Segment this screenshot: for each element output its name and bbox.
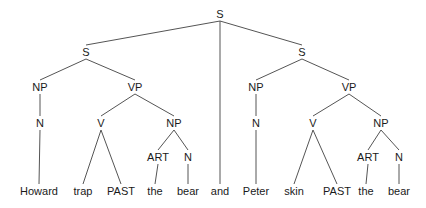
tree-edges <box>0 0 426 208</box>
tree-node-v1: V <box>97 118 104 129</box>
tree-node-s0: S <box>216 9 223 20</box>
tree-edge <box>86 59 135 80</box>
leaf-word-w7: Peter <box>243 186 269 197</box>
tree-node-vp2: VP <box>342 82 357 93</box>
tree-edge <box>86 21 220 45</box>
tree-edge <box>294 130 313 184</box>
tree-edge <box>366 164 368 184</box>
tree-node-art1: ART <box>147 152 169 163</box>
tree-node-vp1: VP <box>128 82 143 93</box>
leaf-word-w3: PAST <box>107 186 135 197</box>
tree-node-n3: N <box>184 152 192 163</box>
leaf-word-w6: and <box>211 186 229 197</box>
syntax-tree-diagram: SSSNPVPNPVPNVNPNVNPARTNARTNHowardtrapPAS… <box>0 0 426 208</box>
tree-edge <box>313 94 349 116</box>
tree-edge <box>174 130 188 150</box>
tree-edge <box>40 59 86 80</box>
tree-edge <box>313 130 337 184</box>
tree-edge <box>155 164 158 184</box>
tree-node-v2: V <box>309 118 316 129</box>
leaf-word-w5: bear <box>177 186 199 197</box>
tree-edge <box>368 130 381 150</box>
leaf-word-w11: bear <box>388 186 410 197</box>
tree-edge <box>83 130 101 184</box>
tree-edge <box>349 94 381 116</box>
leaf-word-w1: Howard <box>20 186 58 197</box>
leaf-word-w10: the <box>358 186 373 197</box>
tree-edge <box>101 94 135 116</box>
tree-node-n4: N <box>395 152 403 163</box>
tree-edge <box>39 130 40 184</box>
tree-edge <box>135 94 174 116</box>
tree-edge <box>302 59 349 80</box>
tree-edge <box>381 130 399 150</box>
leaf-word-w9: PAST <box>323 186 351 197</box>
tree-node-art2: ART <box>357 152 379 163</box>
tree-edge <box>158 130 174 150</box>
leaf-word-w8: skin <box>284 186 304 197</box>
tree-node-np1: NP <box>32 82 47 93</box>
tree-node-n1: N <box>36 118 44 129</box>
tree-node-n2: N <box>252 118 260 129</box>
leaf-word-w2: trap <box>74 186 93 197</box>
leaf-word-w4: the <box>147 186 162 197</box>
tree-node-s2: S <box>298 47 305 58</box>
tree-node-s1: S <box>82 47 89 58</box>
tree-edge <box>256 59 302 80</box>
tree-node-np3: NP <box>166 118 181 129</box>
tree-edge <box>220 21 302 45</box>
tree-edge <box>101 130 121 184</box>
tree-node-np2: NP <box>248 82 263 93</box>
tree-node-np4: NP <box>373 118 388 129</box>
